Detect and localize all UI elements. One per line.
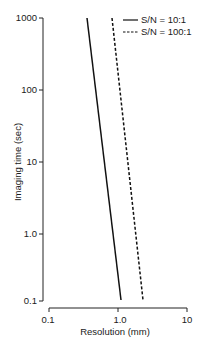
legend-label-sn-100: S/N = 100:1 bbox=[141, 26, 191, 37]
y-tick-label-10: 10 bbox=[26, 156, 37, 167]
y-tick-label-100: 100 bbox=[21, 84, 37, 95]
legend: S/N = 10:1 S/N = 100:1 bbox=[123, 14, 191, 37]
y-tick-label-0-1: 0.1 bbox=[24, 295, 37, 306]
x-tick-label-0-1: 0.1 bbox=[41, 314, 54, 325]
x-axis-title: Resolution (mm) bbox=[80, 326, 150, 337]
x-tick-label-10: 10 bbox=[182, 314, 193, 325]
x-tick-label-1: 1.0 bbox=[113, 314, 126, 325]
chart: 1000 100 10 1.0 0.1 Imaging time (sec) 0… bbox=[0, 0, 206, 338]
legend-label-sn-10: S/N = 10:1 bbox=[141, 14, 186, 25]
y-tick-label-1: 1.0 bbox=[24, 228, 37, 239]
x-ticks bbox=[49, 308, 187, 312]
y-axis-title: Imaging time (sec) bbox=[12, 123, 23, 201]
y-ticks bbox=[39, 18, 43, 301]
y-tick-label-1000: 1000 bbox=[16, 12, 37, 23]
